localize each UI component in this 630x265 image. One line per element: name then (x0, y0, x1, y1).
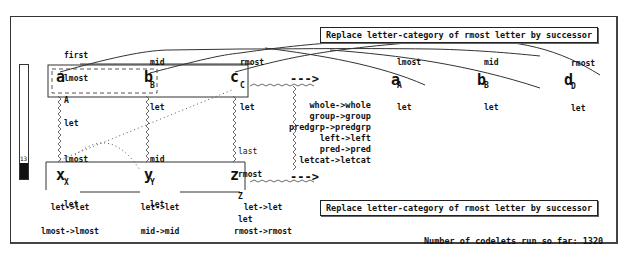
mapping-text: letcat->letcat (289, 155, 371, 166)
bridge-text: mid->mid (135, 228, 185, 236)
letter-z: z (230, 168, 239, 183)
desc-text: mid (150, 59, 164, 67)
letter-a: a (56, 70, 65, 85)
letter-y: y (144, 168, 153, 183)
bridge-label-z: let->let rmost->rmost (228, 188, 298, 244)
desc-text: let (64, 120, 88, 128)
desc-text: A (397, 82, 421, 90)
temperature-value: 13 (20, 155, 27, 162)
desc-text: A (64, 97, 88, 105)
group-mappings: whole->whole group->group predgrp->predg… (289, 100, 371, 166)
letter-c: c (230, 70, 239, 85)
desc-text: lmost (64, 156, 88, 164)
desc-text: rmost (571, 60, 595, 68)
desc-text: let (484, 104, 498, 112)
letter-mod-b: b (477, 73, 486, 88)
desc-text: let (240, 104, 264, 112)
bridge-label-x: let->let lmost->lmost (30, 188, 110, 244)
bridge-text: let->let (228, 204, 298, 212)
bridge-text: let->let (30, 204, 110, 212)
rule-bottom: Replace letter-category of rmost letter … (320, 200, 598, 216)
descriptor-c: rmost C let (240, 44, 264, 119)
arrow-top: ---> (290, 73, 319, 85)
desc-text: B (484, 82, 498, 90)
desc-text: let (571, 105, 595, 113)
mapping-text: group->group (289, 111, 371, 122)
codelets-count: Number of codelets run so far: 1320 (424, 236, 603, 246)
arrow-bottom: ---> (290, 171, 319, 183)
desc-text: mid (150, 156, 164, 164)
bridge-text: let->let (135, 204, 185, 212)
desc-text: first (64, 52, 88, 60)
desc-text: X (64, 179, 88, 187)
desc-text: lmost (397, 59, 421, 67)
desc-text: C (240, 82, 264, 90)
bridge-label-y: let->let mid->mid (135, 188, 185, 244)
mapping-text: predgrp->predgrp (289, 122, 371, 133)
rule-top: Replace letter-category of rmost letter … (320, 27, 598, 43)
bridge-text: rmost->rmost (228, 228, 298, 236)
bridge-text: lmost->lmost (30, 228, 110, 236)
descriptor-mod-d: rmost D let (571, 45, 595, 120)
desc-text: last (238, 148, 262, 156)
mapping-text: whole->whole (289, 100, 371, 111)
desc-text: let (397, 104, 421, 112)
letter-mod-a: a (391, 73, 400, 88)
desc-text: mid (484, 59, 498, 67)
temperature-fill (20, 163, 28, 179)
descriptor-mod-b: mid B let (484, 44, 498, 119)
desc-text: D (571, 83, 595, 91)
mapping-text: pred->pred (289, 144, 371, 155)
desc-text: rmost (240, 59, 264, 67)
letter-b: b (144, 70, 153, 85)
desc-text: lmost (64, 75, 88, 83)
letter-mod-d: d (564, 73, 573, 88)
mapping-text: left->left (289, 133, 371, 144)
temperature-gauge (19, 64, 29, 180)
descriptor-mod-a: lmost A let (397, 44, 421, 119)
desc-text: let (150, 104, 164, 112)
desc-text: rmost (238, 171, 262, 179)
letter-x: x (56, 168, 65, 183)
descriptor-a: first lmost A let (64, 37, 88, 135)
